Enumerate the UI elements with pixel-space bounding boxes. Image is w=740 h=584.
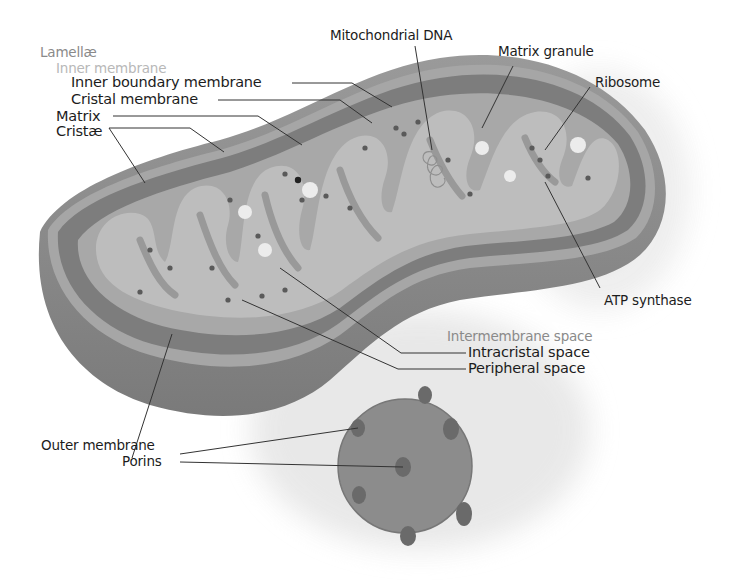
label-inner-boundary-membrane: Inner boundary membrane	[71, 75, 262, 90]
label-cristae: Cristæ	[56, 124, 102, 139]
label-matrix: Matrix	[56, 109, 100, 124]
label-ribosome: Ribosome	[595, 75, 660, 90]
label-porins: Porins	[122, 454, 162, 469]
label-intermembrane-space: Intermembrane space	[447, 329, 592, 344]
label-mitochondrial-dna: Mitochondrial DNA	[330, 28, 452, 43]
mitochondrion-diagram: Lamellæ Inner membrane Inner boundary me…	[0, 0, 740, 584]
label-peripheral-space: Peripheral space	[468, 361, 585, 376]
label-intracristal-space: Intracristal space	[468, 345, 590, 360]
label-outer-membrane: Outer membrane	[41, 438, 155, 453]
label-matrix-granule: Matrix granule	[498, 44, 594, 59]
label-lamellae: Lamellæ	[40, 45, 97, 60]
label-atp-synthase: ATP synthase	[604, 293, 692, 308]
label-cristal-membrane: Cristal membrane	[71, 92, 198, 107]
